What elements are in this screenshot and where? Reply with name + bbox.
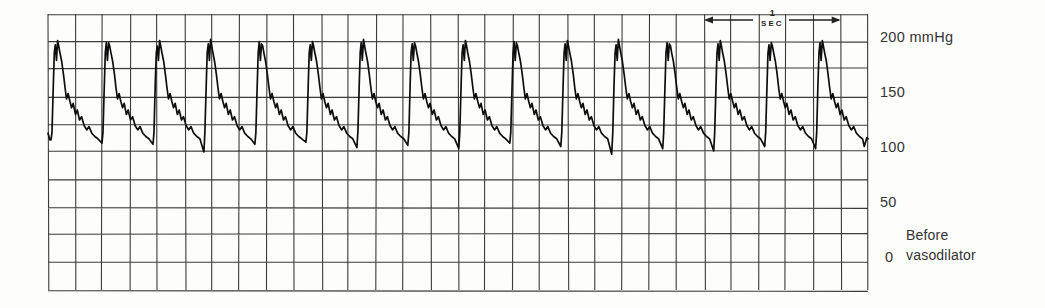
grid-lines bbox=[48, 14, 868, 291]
caption-line-2: vasodilator bbox=[906, 246, 976, 266]
time-marker-value: 1 bbox=[762, 8, 782, 18]
y-tick-0: 0 bbox=[885, 249, 893, 265]
time-marker-unit: SEC bbox=[752, 19, 792, 29]
y-tick-50: 50 bbox=[880, 194, 897, 210]
caption-line-1: Before bbox=[906, 226, 976, 246]
y-tick-150: 150 bbox=[880, 84, 905, 100]
y-tick-100: 100 bbox=[880, 139, 905, 155]
figure-before-vasodilator: 200 mmHg 150 100 50 0 1 SEC Before vasod… bbox=[0, 0, 1045, 308]
y-tick-200-mmhg: 200 mmHg bbox=[880, 29, 953, 45]
figure-caption: Before vasodilator bbox=[906, 226, 976, 265]
